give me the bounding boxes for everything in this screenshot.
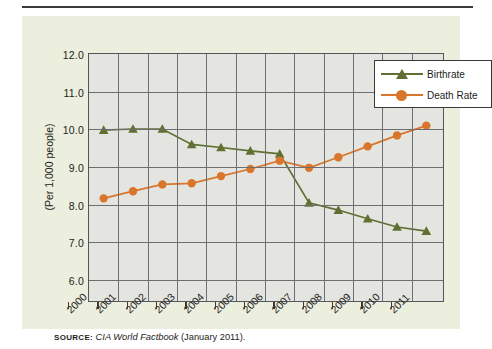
gridline-horizontal <box>89 205 443 206</box>
data-point-death-rate <box>363 142 371 150</box>
y-axis-tick-label: 7.0 <box>44 237 84 249</box>
legend-label-birthrate: Birthrate <box>427 69 465 80</box>
x-axis-tick-mark <box>185 302 186 309</box>
gridline-horizontal <box>89 129 443 130</box>
legend-item-death-rate[interactable]: Death Rate <box>375 85 491 105</box>
gridline-vertical <box>353 54 354 301</box>
y-axis-tick-label: 6.0 <box>44 275 84 287</box>
data-point-death-rate <box>334 153 342 161</box>
chart-panel: (Per 1,000 people) 12.011.010.09.08.07.0… <box>22 16 460 329</box>
legend-swatch-birthrate <box>381 67 423 81</box>
circle-icon <box>396 90 407 101</box>
data-point-death-rate <box>187 179 195 187</box>
x-axis-tick-mark <box>215 302 216 309</box>
y-axis-tick-label: 8.0 <box>44 200 84 212</box>
y-axis-tick-label: 11.0 <box>44 87 84 99</box>
gridline-vertical <box>265 54 266 301</box>
gridline-vertical <box>148 54 149 301</box>
gridline-vertical <box>294 54 295 301</box>
x-axis-tick-mark <box>391 302 392 309</box>
top-divider-rule <box>22 6 473 8</box>
data-point-death-rate <box>129 187 137 195</box>
x-axis-tick-mark <box>273 302 274 309</box>
x-axis-tick-mark <box>156 302 157 309</box>
source-date: (January 2011). <box>178 332 245 342</box>
gridline-horizontal <box>89 54 443 55</box>
data-point-death-rate <box>217 172 225 180</box>
source-note: Source: CIA World Factbook (January 2011… <box>54 332 245 342</box>
gridline-vertical <box>324 54 325 301</box>
y-axis-tick-label: 10.0 <box>44 124 84 136</box>
chart-legend: Birthrate Death Rate <box>374 60 492 108</box>
gridline-vertical <box>177 54 178 301</box>
gridline-vertical <box>118 54 119 301</box>
gridline-vertical <box>236 54 237 301</box>
legend-item-birthrate[interactable]: Birthrate <box>375 64 491 84</box>
data-point-death-rate <box>393 131 401 139</box>
gridline-vertical <box>206 54 207 301</box>
y-axis-tick-label: 9.0 <box>44 162 84 174</box>
x-axis-tick-mark <box>97 302 98 309</box>
legend-label-death-rate: Death Rate <box>427 90 478 101</box>
data-point-death-rate <box>275 156 283 164</box>
data-point-death-rate <box>99 194 107 202</box>
x-axis-tick-mark <box>68 302 69 309</box>
triangle-icon <box>396 69 408 79</box>
x-axis-tick-mark <box>361 302 362 309</box>
y-axis-tick-label: 12.0 <box>44 49 84 61</box>
legend-swatch-death-rate <box>381 88 423 102</box>
gridline-horizontal <box>89 167 443 168</box>
source-title: CIA World Factbook <box>96 332 179 342</box>
data-point-death-rate <box>246 165 254 173</box>
y-axis-tick-labels: 12.011.010.09.08.07.06.0 <box>40 53 84 302</box>
x-axis-tick-mark <box>244 302 245 309</box>
source-label: Source: <box>54 333 93 342</box>
x-axis-tick-mark <box>303 302 304 309</box>
gridline-horizontal <box>89 280 443 281</box>
data-point-death-rate <box>158 180 166 188</box>
x-axis-tick-mark <box>332 302 333 309</box>
gridline-horizontal <box>89 242 443 243</box>
x-axis-tick-mark <box>127 302 128 309</box>
